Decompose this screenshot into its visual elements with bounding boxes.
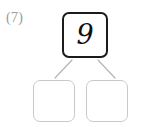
whole-number-value: 9 xyxy=(76,21,93,48)
part-box-left[interactable] xyxy=(33,80,75,122)
problem-number-label: (7) xyxy=(6,10,23,26)
part-box-right[interactable] xyxy=(86,80,128,122)
part-value-left xyxy=(34,81,74,121)
whole-number-box[interactable]: 9 xyxy=(62,12,108,58)
connector-line-left xyxy=(55,60,72,78)
number-bond-worksheet-item: (7) 9 xyxy=(0,0,149,127)
part-value-right xyxy=(87,81,127,121)
connector-line-right xyxy=(98,60,115,78)
